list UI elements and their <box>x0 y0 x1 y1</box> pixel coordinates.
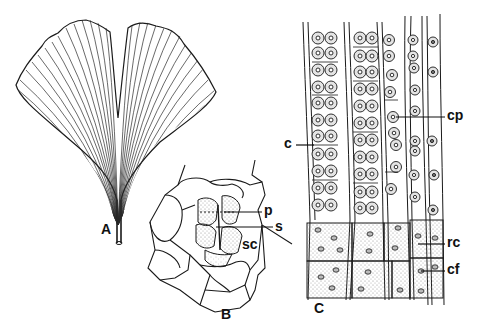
annotation-rc: rc <box>447 235 460 249</box>
panel-label-a: A <box>101 222 111 236</box>
annotation-c: c <box>284 136 292 150</box>
annotation-p: p <box>264 203 273 217</box>
annotation-s: s <box>275 219 283 233</box>
annotation-cp: cp <box>447 108 463 122</box>
panel-label-c: C <box>314 301 324 315</box>
botanical-figure: A B C p s sc c cp rc cf <box>0 0 481 331</box>
tissue-illustration <box>0 0 481 331</box>
panel-label-b: B <box>221 307 231 321</box>
annotation-cf: cf <box>447 262 459 276</box>
annotation-sc: sc <box>242 237 258 251</box>
